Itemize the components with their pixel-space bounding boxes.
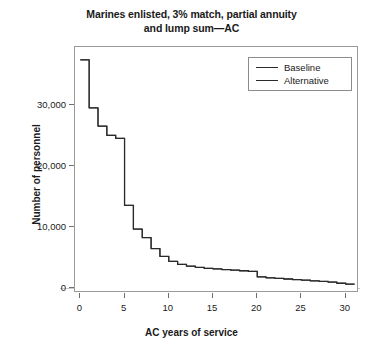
chart-title-line-1: Marines enlisted, 3% match, partial annu… xyxy=(0,7,383,21)
x-tick-label: 0 xyxy=(59,302,99,313)
x-tick-label: 10 xyxy=(148,302,188,313)
x-tick-mark xyxy=(256,293,257,298)
legend-item-baseline: Baseline xyxy=(249,61,351,74)
series-line-alternative xyxy=(80,60,354,284)
x-tick-mark xyxy=(168,293,169,298)
x-tick-label: 20 xyxy=(236,302,276,313)
x-tick-mark xyxy=(300,293,301,298)
chart-title-line-2: and lump sum—AC xyxy=(0,21,383,35)
chart-legend: Baseline Alternative xyxy=(248,57,352,91)
chart-title: Marines enlisted, 3% match, partial annu… xyxy=(0,7,383,35)
legend-label-alternative: Alternative xyxy=(284,74,329,87)
x-tick-mark xyxy=(345,293,346,298)
x-tick-mark xyxy=(212,293,213,298)
legend-item-alternative: Alternative xyxy=(249,74,351,87)
x-axis-label: AC years of service xyxy=(0,327,383,338)
series-line-baseline xyxy=(80,60,354,284)
legend-swatch-alternative xyxy=(256,80,278,81)
legend-swatch-baseline xyxy=(256,67,278,68)
x-tick-label: 25 xyxy=(280,302,320,313)
x-tick-label: 30 xyxy=(325,302,365,313)
y-tick-label: 0 xyxy=(6,281,66,292)
legend-label-baseline: Baseline xyxy=(284,61,320,74)
chart-figure: Marines enlisted, 3% match, partial annu… xyxy=(0,0,383,359)
x-tick-label: 5 xyxy=(104,302,144,313)
x-tick-mark xyxy=(124,293,125,298)
y-axis-label: Number of personnel xyxy=(31,75,42,275)
x-tick-mark xyxy=(79,293,80,298)
x-tick-label: 15 xyxy=(192,302,232,313)
